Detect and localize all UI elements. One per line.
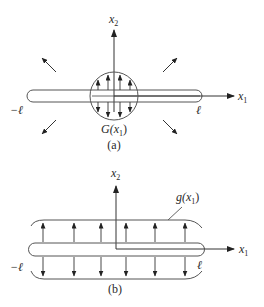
left-end-label-b: −ℓ <box>10 260 23 274</box>
x1-axis-label-b: x1 <box>238 242 248 258</box>
x2-axis-label-b: x2 <box>110 166 120 182</box>
caption-b: (b) <box>108 282 122 296</box>
right-end-label-a: ℓ <box>196 103 201 117</box>
right-end-label-b: ℓ <box>197 258 202 272</box>
region-label-a: G(x1) <box>101 122 127 138</box>
x1-axis-label-a: x1 <box>237 89 247 105</box>
force-arrows-up-b <box>43 223 185 242</box>
diagram-canvas: x2 x1 <box>0 0 264 307</box>
envelope-bottom-b <box>31 271 202 279</box>
caption-a: (a) <box>107 138 120 152</box>
region-label-b: g(x1) <box>176 190 199 206</box>
force-arrows-down-b <box>43 257 185 276</box>
figure-a: x2 x1 <box>10 12 247 152</box>
x2-axis-label-a: x2 <box>108 12 118 28</box>
figure-b: x2 x1 <box>10 166 248 296</box>
region-leader-b <box>168 207 182 220</box>
left-end-label-a: −ℓ <box>10 103 23 117</box>
